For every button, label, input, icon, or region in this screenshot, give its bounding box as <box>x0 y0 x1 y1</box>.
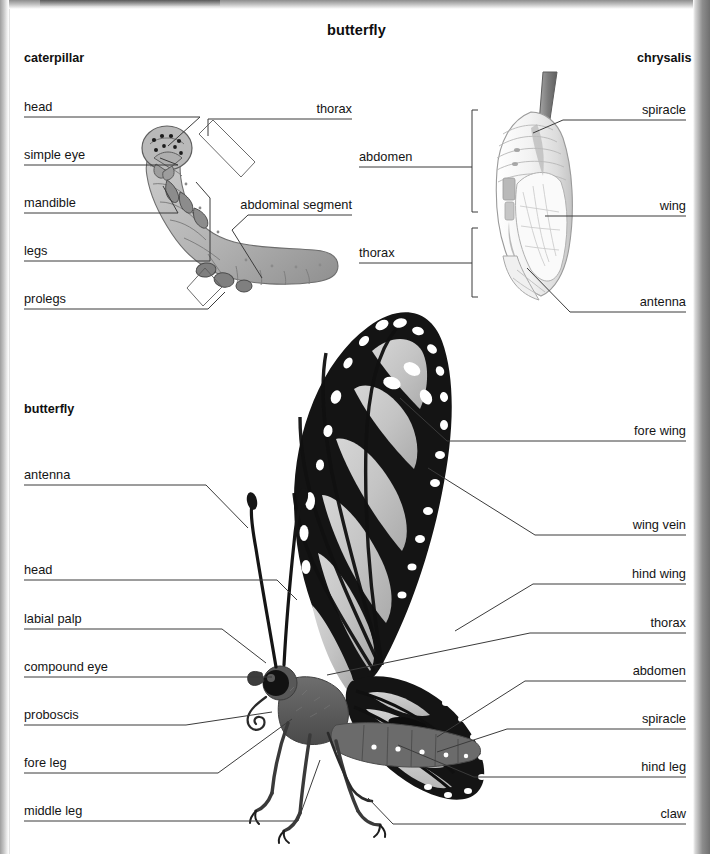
label-butterfly-head: head <box>24 562 52 577</box>
label-butterfly-hind-leg: hind leg <box>566 759 686 774</box>
label-chrysalis-antenna: antenna <box>586 294 686 309</box>
label-butterfly-thorax: thorax <box>566 615 686 630</box>
label-butterfly-spiracle: spiracle <box>566 711 686 726</box>
label-chrysalis-spiracle: spiracle <box>586 102 686 117</box>
label-chrysalis-wing: wing <box>586 198 686 213</box>
diagram-page: butterfly caterpillar chrysalis butterfl… <box>0 0 710 854</box>
label-caterpillar-simple-eye: simple eye <box>24 147 85 162</box>
label-caterpillar-mandible: mandible <box>24 195 76 210</box>
label-butterfly-hind-wing: hind wing <box>566 566 686 581</box>
label-caterpillar-prolegs: prolegs <box>24 291 66 306</box>
label-butterfly-proboscis: proboscis <box>24 707 79 722</box>
label-butterfly-compound-eye: compound eye <box>24 659 108 674</box>
label-butterfly-antenna: antenna <box>24 467 70 482</box>
label-butterfly-labial-palp: labial palp <box>24 611 82 626</box>
label-butterfly-abdomen: abdomen <box>566 663 686 678</box>
label-caterpillar-legs: legs <box>24 243 47 258</box>
label-butterfly-fore-leg: fore leg <box>24 755 67 770</box>
label-chrysalis-thorax: thorax <box>359 245 395 260</box>
label-chrysalis-abdomen: abdomen <box>359 149 412 164</box>
label-butterfly-claw: claw <box>566 806 686 821</box>
label-butterfly-wing-vein: wing vein <box>566 517 686 532</box>
label-butterfly-middle-leg: middle leg <box>24 803 82 818</box>
label-caterpillar-head: head <box>24 99 52 114</box>
label-butterfly-fore-wing: fore wing <box>566 423 686 438</box>
label-caterpillar-thorax: thorax <box>252 101 352 116</box>
label-caterpillar-abdominal-segment: abdominal segment <box>202 197 352 212</box>
